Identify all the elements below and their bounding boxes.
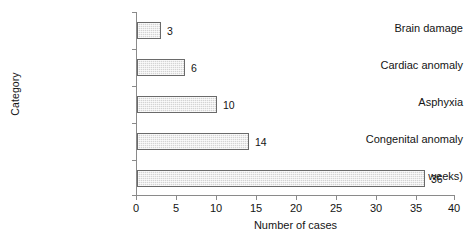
x-axis-tick-label: 30 [361, 202, 391, 214]
x-axis-tick-label: 20 [281, 202, 311, 214]
bar-brain-damage [137, 22, 161, 39]
bar-value-preterm: 36 [431, 173, 443, 185]
y-axis-tick [132, 123, 136, 124]
x-axis-tick [296, 196, 297, 200]
x-axis-tick [136, 196, 137, 200]
bar-cardiac-anomaly [137, 59, 185, 76]
bar-preterm [137, 170, 425, 187]
x-axis-tick [454, 196, 455, 200]
bar-chart: Category Brain damage Cardiac anomaly As… [0, 0, 470, 239]
x-axis-tick-label: 35 [401, 202, 431, 214]
x-axis-tick [216, 196, 217, 200]
x-axis-tick [416, 196, 417, 200]
x-axis-tick-label: 25 [321, 202, 351, 214]
x-axis-tick-label: 40 [439, 202, 469, 214]
x-axis-tick-label: 5 [161, 202, 191, 214]
x-axis-tick [376, 196, 377, 200]
bar-value-cardiac-anomaly: 6 [191, 62, 197, 74]
x-axis-tick-label: 15 [241, 202, 271, 214]
x-axis-tick-label: 0 [121, 202, 151, 214]
y-axis-tick [132, 86, 136, 87]
x-axis-tick [256, 196, 257, 200]
bar-value-brain-damage: 3 [167, 25, 173, 37]
bar-asphyxia [137, 96, 217, 113]
bar-congenital-anomaly [137, 133, 249, 150]
bar-value-asphyxia: 10 [223, 99, 235, 111]
y-axis-tick [132, 160, 136, 161]
x-axis-tick [336, 196, 337, 200]
x-axis-tick-label: 10 [201, 202, 231, 214]
y-axis-title: Category [9, 54, 21, 134]
y-axis-tick [132, 49, 136, 50]
x-axis-title: Number of cases [136, 219, 455, 231]
x-axis-tick [176, 196, 177, 200]
y-axis-tick [132, 12, 136, 13]
bar-value-congenital-anomaly: 14 [255, 136, 267, 148]
plot-area: 3 6 10 14 36 0 5 10 15 20 25 30 35 40 Nu… [136, 12, 455, 195]
